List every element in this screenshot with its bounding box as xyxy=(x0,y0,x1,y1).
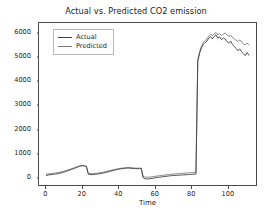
series-line-actual xyxy=(46,35,249,179)
x-tick-label: 20 xyxy=(78,190,86,198)
x-tick-label: 0 xyxy=(43,190,47,198)
legend-swatch-actual xyxy=(58,37,72,38)
y-tick-label: 2000 xyxy=(5,125,36,133)
y-tick-label: 6000 xyxy=(5,28,36,36)
x-tick-label: 100 xyxy=(222,190,235,198)
legend-label-actual: Actual xyxy=(76,33,97,42)
legend-swatch-predicted xyxy=(58,46,72,47)
x-tick-mark xyxy=(45,186,46,189)
legend-item-actual: Actual xyxy=(58,33,107,42)
y-tick-label: 1000 xyxy=(5,149,36,157)
chart-figure: Actual vs. Predicted CO2 emission CO2 em… xyxy=(0,0,272,217)
chart-legend: Actual Predicted xyxy=(53,29,114,55)
y-tick-label: 3000 xyxy=(5,100,36,108)
y-tick-label: 4000 xyxy=(5,76,36,84)
x-axis-label: Time xyxy=(38,199,257,207)
y-axis-ticks: 0100020003000400050006000 xyxy=(6,22,36,186)
x-tick-mark xyxy=(82,186,83,189)
x-tick-mark xyxy=(118,186,119,189)
legend-label-predicted: Predicted xyxy=(76,42,107,51)
plot-area: Actual Predicted xyxy=(38,22,257,186)
y-tick-label: 5000 xyxy=(5,52,36,60)
legend-item-predicted: Predicted xyxy=(58,42,107,51)
x-tick-mark xyxy=(228,186,229,189)
x-tick-mark xyxy=(191,186,192,189)
x-tick-label: 80 xyxy=(187,190,195,198)
y-tick-label: 0 xyxy=(5,173,36,181)
chart-title: Actual vs. Predicted CO2 emission xyxy=(0,6,272,16)
x-tick-label: 40 xyxy=(114,190,122,198)
x-tick-mark xyxy=(155,186,156,189)
x-tick-label: 60 xyxy=(151,190,159,198)
